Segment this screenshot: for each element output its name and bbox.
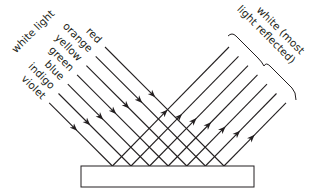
reflected-ray — [223, 84, 267, 129]
reflected-ray — [224, 138, 252, 166]
incident-ray-red — [153, 95, 224, 166]
incident-ray-orange — [140, 100, 206, 166]
incident-ray-blue — [68, 84, 101, 117]
reflected-ray — [252, 103, 286, 138]
incident-ray-red — [105, 47, 153, 95]
reflected-ray — [208, 75, 257, 125]
reflecting-surface — [81, 166, 254, 187]
incident-ray-violet — [74, 128, 112, 166]
incident-ray-blue — [101, 117, 150, 166]
reflection-diagram: white light red orange yellow green blue… — [0, 0, 323, 196]
incident-ray-green — [77, 75, 113, 111]
incident-ray-indigo — [59, 94, 88, 123]
reflected-ray — [168, 125, 208, 166]
reflected-ray — [150, 121, 194, 166]
reflected-ray — [165, 47, 229, 112]
reflected-ray — [179, 56, 238, 116]
reflected-ray — [205, 133, 237, 166]
incident-ray-orange — [96, 56, 140, 100]
reflected-ray — [131, 117, 179, 166]
incident-ray-violet — [49, 103, 74, 128]
reflected-ray — [237, 94, 276, 134]
incident-ray-indigo — [88, 123, 132, 167]
light-rays — [49, 47, 286, 166]
incident-ray-yellow — [86, 66, 126, 106]
